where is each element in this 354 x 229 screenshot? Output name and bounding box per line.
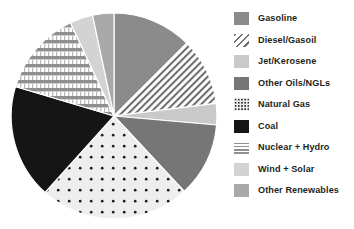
legend-swatch-other-oils-ngls [234, 77, 249, 90]
legend-swatch-gasoline [234, 12, 249, 25]
chart-legend: Gasoline Diesel/Gasoil Jet/Kerosene Othe… [234, 8, 354, 222]
legend-label-nuclear-hydro: Nuclear + Hydro [258, 142, 330, 153]
pie-slices [11, 13, 217, 219]
legend-label-coal: Coal [258, 121, 278, 132]
pie-chart-figure: Gasoline Diesel/Gasoil Jet/Kerosene Othe… [0, 0, 354, 229]
legend-swatch-jet-kerosene [234, 55, 249, 68]
legend-item-coal[interactable]: Coal [234, 116, 354, 138]
legend-label-natural-gas: Natural Gas [258, 99, 310, 110]
legend-item-other-renewables[interactable]: Other Renewables [234, 180, 354, 202]
legend-swatch-diesel-gasoil [234, 34, 249, 47]
legend-item-other-oils-ngls[interactable]: Other Oils/NGLs [234, 73, 354, 95]
legend-label-diesel-gasoil: Diesel/Gasoil [258, 35, 316, 46]
legend-swatch-natural-gas [234, 98, 249, 111]
legend-label-wind-solar: Wind + Solar [258, 164, 314, 175]
legend-item-gasoline[interactable]: Gasoline [234, 8, 354, 30]
legend-item-nuclear-hydro[interactable]: Nuclear + Hydro [234, 137, 354, 159]
pie-svg [0, 0, 228, 229]
pie-plot-area [0, 0, 228, 229]
legend-swatch-coal [234, 120, 249, 133]
legend-label-other-oils-ngls: Other Oils/NGLs [258, 78, 330, 89]
legend-swatch-wind-solar [234, 163, 249, 176]
legend-label-gasoline: Gasoline [258, 13, 297, 24]
legend-swatch-nuclear-hydro [234, 141, 249, 154]
legend-label-other-renewables: Other Renewables [258, 185, 339, 196]
legend-item-diesel-gasoil[interactable]: Diesel/Gasoil [234, 30, 354, 52]
legend-item-wind-solar[interactable]: Wind + Solar [234, 159, 354, 181]
legend-swatch-other-renewables [234, 184, 249, 197]
legend-label-jet-kerosene: Jet/Kerosene [258, 56, 316, 67]
legend-item-natural-gas[interactable]: Natural Gas [234, 94, 354, 116]
legend-item-jet-kerosene[interactable]: Jet/Kerosene [234, 51, 354, 73]
